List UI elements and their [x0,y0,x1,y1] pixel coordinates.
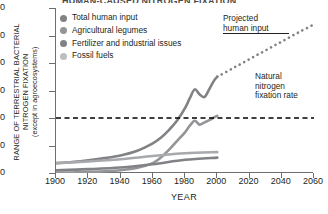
x-tick-mark [281,173,282,178]
y-tick-label: 0 [0,167,5,177]
natural-line1: Natural [255,71,282,81]
legend-item: Fertilizer and industrial issues [60,39,181,49]
x-tick-label: 2060 [296,176,328,186]
natural-line2: nitrogen [255,81,285,91]
x-tick-mark [184,173,185,178]
projected-line2: human input [223,23,269,33]
legend-dot-icon [60,15,67,22]
y-axis-label: RANGE OF TERRESTRIAL BACTERIAL NITROGEN … [12,4,40,180]
legend-item: Fossil fuels [60,51,181,61]
natural-rate-annotation: Natural nitrogen fixation rate [253,71,311,102]
series-line [56,77,217,163]
x-axis-label: YEAR [55,192,313,202]
x-tick-mark [87,173,88,178]
projected-annotation-rule [223,33,289,34]
natural-line3: fixation rate [255,90,298,100]
x-tick-mark [249,173,250,178]
x-tick-mark [55,173,56,178]
y-tick-label: 200 [0,57,5,67]
y-tick-label: 300 [0,2,5,12]
x-tick-mark [152,173,153,178]
legend-item: Total human input [60,13,181,23]
legend-dot-icon [60,53,67,60]
legend-item-label: Total human input [72,13,138,23]
y-tick-label: 150 [0,85,5,95]
x-tick-mark [120,173,121,178]
x-tick-mark [313,173,314,178]
y-tick-label: 50 [0,140,5,150]
y-tick-label: 250 [0,30,5,40]
series-line [56,116,217,173]
legend-dot-icon [60,40,67,47]
series-line [56,152,217,163]
projected-human-input-annotation: Projected human input [223,14,269,33]
chart-title: HUMAN-CAUSED NITROGEN FIXATION [62,0,262,3]
legend-dot-icon [60,27,67,34]
legend-item-label: Fertilizer and industrial issues [72,39,181,49]
x-tick-mark [216,173,217,178]
legend-item-label: Agricultural legumes [72,26,147,36]
legend-item-label: Fossil fuels [72,51,114,61]
projected-line1: Projected [223,13,258,23]
y-axis-label-line2: NITROGEN FIXATION [21,4,30,180]
y-tick-label: 100 [0,112,5,122]
y-axis-label-line3: (except in agroecosystems) [31,4,40,180]
legend-item: Agricultural legumes [60,26,181,36]
chart-legend: Total human inputAgricultural legumesFer… [60,13,181,64]
y-axis-label-line1: RANGE OF TERRESTRIAL BACTERIAL [12,4,21,180]
